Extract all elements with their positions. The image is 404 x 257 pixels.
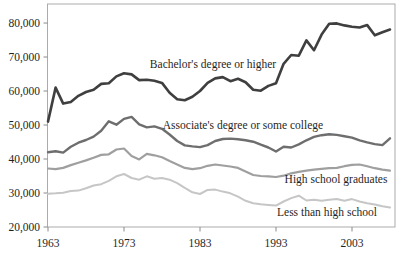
series-label-less-than-high-school: Less than high school bbox=[277, 206, 377, 219]
series-label-associate-s-degree-or-some-college: Associate's degree or some college bbox=[163, 119, 323, 132]
y-tick-label: 40,000 bbox=[8, 153, 40, 166]
x-tick-label: 2003 bbox=[341, 237, 364, 249]
y-tick-label: 60,000 bbox=[8, 85, 40, 98]
y-tick-label: 80,000 bbox=[8, 17, 40, 30]
x-tick-label: 1983 bbox=[189, 237, 212, 249]
chart-canvas: 20,00030,00040,00050,00060,00070,00080,0… bbox=[0, 0, 404, 257]
series-label-high-school-graduates: High school graduates bbox=[285, 173, 388, 186]
y-tick-label: 20,000 bbox=[8, 221, 40, 234]
x-tick-label: 1993 bbox=[265, 237, 288, 249]
plot-border bbox=[48, 4, 396, 227]
series-line-bachelor-s-degree-or-higher bbox=[48, 23, 390, 121]
x-tick-label: 1973 bbox=[113, 237, 136, 249]
earnings-by-education-line-chart: 20,00030,00040,00050,00060,00070,00080,0… bbox=[0, 0, 404, 257]
y-tick-label: 30,000 bbox=[8, 187, 40, 200]
plot-frame bbox=[48, 4, 396, 227]
y-tick-label: 70,000 bbox=[8, 51, 40, 64]
x-tick-label: 1963 bbox=[37, 237, 60, 249]
y-tick-label: 50,000 bbox=[8, 119, 40, 132]
series-label-bachelor-s-degree-or-higher: Bachelor's degree or higher bbox=[150, 58, 276, 71]
